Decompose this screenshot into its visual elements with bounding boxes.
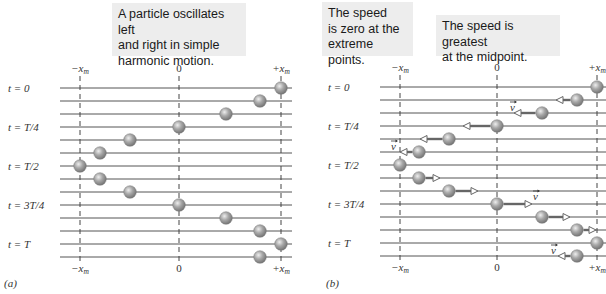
particle-ball xyxy=(413,172,426,185)
particle-ball xyxy=(491,120,504,133)
particle-ball xyxy=(571,94,584,107)
particle-ball xyxy=(124,186,137,199)
velocity-arrow-head xyxy=(514,110,521,117)
particle-ball xyxy=(173,121,186,134)
particle-ball xyxy=(394,159,407,172)
particle-ball xyxy=(173,199,186,212)
particle-ball xyxy=(571,250,584,263)
velocity-arrow-head xyxy=(471,188,478,195)
time-label: t = T/2 xyxy=(328,159,359,171)
vector-arrowhead-icon xyxy=(515,101,518,104)
velocity-arrow-head xyxy=(463,123,470,130)
time-label: t = 3T/4 xyxy=(8,199,45,211)
axis-label-zero: 0 xyxy=(494,261,500,273)
time-label: t = T xyxy=(328,237,351,249)
velocity-label: v xyxy=(533,190,538,202)
velocity-arrow-head xyxy=(400,149,407,156)
panel-caption: (b) xyxy=(326,277,339,290)
shm-diagram: −xm−xm00+xm+xmt = 0t = T/4t = T/2t = 3T/… xyxy=(0,0,606,294)
axis-label-pos: +xm xyxy=(272,62,290,76)
particle-ball xyxy=(74,160,87,173)
particle-ball xyxy=(254,251,267,264)
velocity-label: v xyxy=(510,101,515,113)
axis-label-neg: −xm xyxy=(71,262,89,276)
particle-ball xyxy=(275,238,288,251)
axis-label-zero: 0 xyxy=(494,61,500,73)
vector-arrowhead-icon xyxy=(396,140,399,143)
particle-ball xyxy=(220,212,233,225)
panel-b: −xm−xm00+xm+xmt = 0t = T/4t = T/2t = 3T/… xyxy=(326,61,606,290)
particle-ball xyxy=(571,224,584,237)
velocity-arrow-head xyxy=(420,136,427,143)
particle-ball xyxy=(413,146,426,159)
particle-ball xyxy=(94,173,107,186)
velocity-arrow-head xyxy=(589,227,596,234)
axis-label-zero: 0 xyxy=(176,62,182,74)
axis-label-pos: +xm xyxy=(272,262,290,276)
particle-ball xyxy=(536,211,549,224)
particle-ball xyxy=(591,237,604,250)
time-label: t = 0 xyxy=(8,82,30,94)
axis-label-neg: −xm xyxy=(391,61,409,75)
particle-ball xyxy=(220,108,233,121)
axis-label-neg: −xm xyxy=(71,62,89,76)
time-label: t = 0 xyxy=(328,81,350,93)
particle-ball xyxy=(254,95,267,108)
particle-ball xyxy=(443,133,456,146)
velocity-label: v xyxy=(391,140,396,152)
velocity-arrow-head xyxy=(433,175,440,182)
particle-ball xyxy=(254,225,267,238)
axis-label-pos: +xm xyxy=(588,261,606,275)
axis-label-zero: 0 xyxy=(176,262,182,274)
panel-a: −xm−xm00+xm+xmt = 0t = T/4t = T/2t = 3T/… xyxy=(4,62,292,290)
velocity-arrow-head xyxy=(556,97,563,104)
time-label: t = T xyxy=(8,238,31,250)
time-label: t = 3T/4 xyxy=(328,198,365,210)
axis-label-pos: +xm xyxy=(588,61,606,75)
particle-ball xyxy=(94,147,107,160)
time-label: t = T/4 xyxy=(8,121,39,133)
particle-ball xyxy=(443,185,456,198)
velocity-label: v xyxy=(551,244,556,256)
particle-ball xyxy=(491,198,504,211)
panel-caption: (a) xyxy=(4,277,17,290)
velocity-arrow-head xyxy=(525,201,532,208)
velocity-arrow-head xyxy=(558,253,565,260)
vector-arrowhead-icon xyxy=(538,190,541,193)
vector-arrowhead-icon xyxy=(556,244,559,247)
time-label: t = T/4 xyxy=(328,120,359,132)
axis-label-neg: −xm xyxy=(391,261,409,275)
particle-ball xyxy=(536,107,549,120)
particle-ball xyxy=(124,134,137,147)
particle-ball xyxy=(275,82,288,95)
time-label: t = T/2 xyxy=(8,160,39,172)
velocity-arrow-head xyxy=(563,214,570,221)
particle-ball xyxy=(591,81,604,94)
